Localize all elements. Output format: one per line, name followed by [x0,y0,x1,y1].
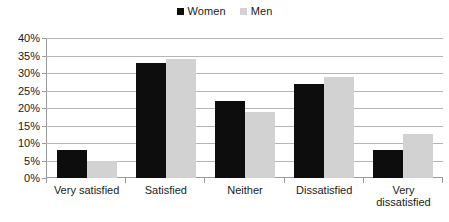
category-label: Very satisfied [47,184,126,208]
x-axis-category-labels: Very satisfiedSatisfiedNeitherDissatisfi… [47,184,443,208]
bar-group [126,38,205,178]
x-tick-mark [363,178,364,183]
y-tick-label: 15% [18,121,40,132]
bar-men[interactable] [87,161,117,179]
category-label: Satisfied [126,184,205,208]
category-label: Dissatisfied [285,184,364,208]
y-tick-label: 30% [18,68,40,79]
x-axis-ticks [46,178,443,183]
x-tick-mark [204,178,205,183]
y-tick-label: 5% [24,156,40,167]
y-tick-label: 40% [18,33,40,44]
bar-women[interactable] [294,84,324,179]
grouped-bar-chart: Women Men 40%35%30%25%20%15%10%5%0% Very… [0,0,449,222]
plot-area: 40%35%30%25%20%15%10%5%0% [46,38,443,178]
x-tick-mark [442,178,443,183]
y-tick-mark [42,126,46,127]
y-tick-mark [42,91,46,92]
y-tick-mark [42,108,46,109]
y-tick-mark [42,143,46,144]
y-tick-mark [42,38,46,39]
y-tick-label: 35% [18,51,40,62]
legend-entry-women: Women [177,6,226,17]
bar-men[interactable] [324,77,354,179]
bar-group [364,38,443,178]
legend-swatch-men [240,8,247,15]
bar-women[interactable] [57,150,87,178]
bar-group [285,38,364,178]
bar-group [205,38,284,178]
bar-women[interactable] [136,63,166,179]
legend-entry-men: Men [240,6,273,17]
bar-men[interactable] [166,59,196,178]
y-tick-mark [42,56,46,57]
y-tick-label: 10% [18,138,40,149]
x-tick-mark [125,178,126,183]
y-tick-mark [42,73,46,74]
y-tick-label: 25% [18,86,40,97]
legend-label-men: Men [251,6,273,17]
legend-label-women: Women [188,6,226,17]
category-label: Neither [205,184,284,208]
y-tick-mark [42,161,46,162]
legend-swatch-women [177,8,184,15]
x-tick-mark [284,178,285,183]
category-label: Very dissatisfied [364,184,443,208]
y-tick-label: 0% [24,173,40,184]
bar-women[interactable] [215,101,245,178]
bar-women[interactable] [373,150,403,178]
bar-men[interactable] [245,112,275,179]
bar-men[interactable] [403,134,433,178]
x-tick-mark [46,178,47,183]
chart-legend: Women Men [0,6,449,17]
bars-layer [47,38,443,178]
bar-group [47,38,126,178]
y-tick-label: 20% [18,103,40,114]
